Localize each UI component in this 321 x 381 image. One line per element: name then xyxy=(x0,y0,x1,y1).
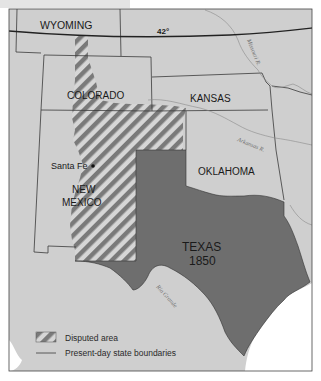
label-santa-fe: Santa Fe xyxy=(51,161,88,171)
label-wyoming: WYOMING xyxy=(40,19,93,31)
label-texas-year: 1850 xyxy=(189,254,216,268)
santa-fe-marker xyxy=(91,164,95,168)
map-texas-1850: WYOMING 42° COLORADO KANSAS OKLAHOMA San… xyxy=(0,0,321,381)
label-new-mexico-1: NEW xyxy=(72,184,96,195)
label-kansas: KANSAS xyxy=(190,93,231,104)
label-new-mexico-2: MEXICO xyxy=(62,197,102,208)
legend-boundaries-label: Present-day state boundaries xyxy=(65,348,176,358)
label-oklahoma: OKLAHOMA xyxy=(198,166,255,177)
legend-disputed-label: Disputed area xyxy=(65,333,118,343)
label-texas: TEXAS xyxy=(182,240,221,254)
label-colorado: COLORADO xyxy=(67,90,124,101)
label-latitude-42: 42° xyxy=(157,27,169,36)
legend-disputed-swatch xyxy=(36,332,56,342)
